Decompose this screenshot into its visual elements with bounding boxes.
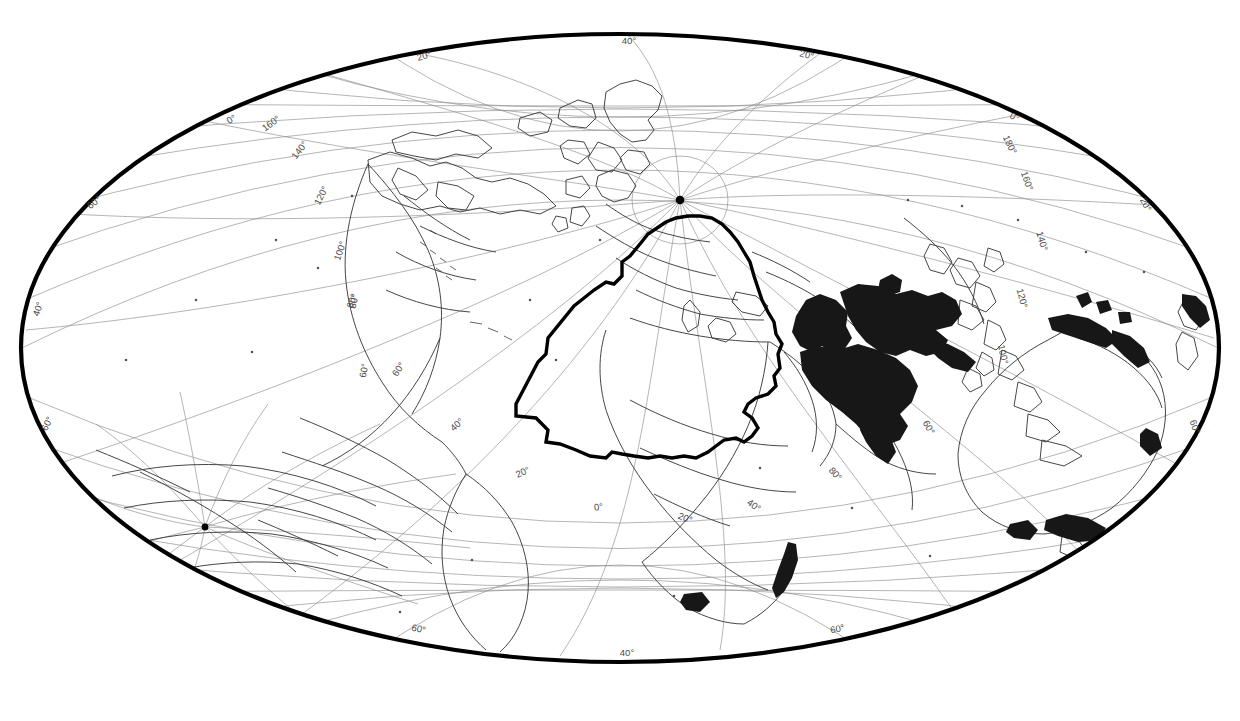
graticule-label: 40°: [620, 647, 635, 658]
shaded-island-fragment-c: [1118, 312, 1132, 324]
graticule-label: 40°: [622, 35, 637, 46]
south-pole-marker: [202, 524, 209, 531]
graticule-label: 0°: [593, 500, 604, 512]
north-pole-marker: [676, 196, 685, 205]
map-canvas: 40°20°20°0°160°140°120°100°80°60°40°60°6…: [0, 0, 1240, 721]
world-map-figure: 40°20°20°0°160°140°120°100°80°60°40°60°6…: [0, 0, 1240, 721]
